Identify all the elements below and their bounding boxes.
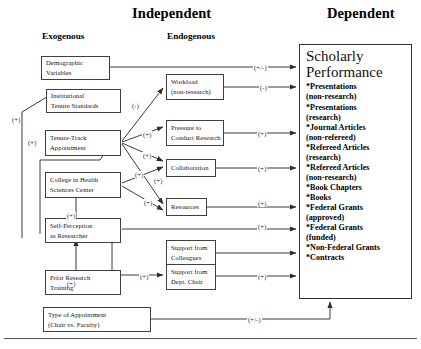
node-line: (non-research) bbox=[171, 87, 221, 97]
outcome-item: *Contracts bbox=[306, 253, 411, 263]
path-diagram: Independent Dependent Exogenous Endogeno… bbox=[0, 0, 421, 349]
node-line: Variables bbox=[46, 68, 107, 78]
outcome-item: *Presentations bbox=[306, 103, 411, 113]
node-line: Collaboration bbox=[171, 163, 213, 173]
edge-label-selfperception-to-outcome: (+) bbox=[257, 223, 267, 230]
edge-label-workload-to-outcome: (-) bbox=[259, 84, 268, 91]
node-resources[interactable]: Resources bbox=[166, 198, 207, 216]
node-type-of-appointment[interactable]: Type of Appointment (Chair vs. Faculty) bbox=[43, 307, 151, 332]
edge-label-college-to-collaboration: (+) bbox=[153, 177, 163, 184]
node-college-in-health-sciences-center[interactable]: College in Health Sciences Center bbox=[45, 172, 121, 198]
edge-label-deptchair-to-outcome: (+) bbox=[257, 273, 267, 280]
outcome-item: *Refereed Articles bbox=[306, 143, 411, 153]
node-line: Tenure-Track bbox=[50, 133, 118, 143]
edge-label-tenure-to-collaboration: (+) bbox=[142, 152, 152, 159]
node-line: Appointment bbox=[50, 143, 118, 153]
node-support-from-colleagues[interactable]: Support from Colleagues bbox=[166, 240, 216, 266]
outcome-item-cont: (non-refereed) bbox=[306, 133, 411, 143]
outcome-title-line: Scholarly bbox=[306, 48, 411, 64]
edge-label-tenure-to-pressure: (+) bbox=[142, 131, 152, 138]
outcome-item: *Presentations bbox=[306, 82, 411, 92]
edge-label-prior-to-selfperception: (+) bbox=[66, 280, 76, 287]
outcome-item-cont: (research) bbox=[306, 153, 411, 163]
edge-label-selfperception-to-institutional: (+) bbox=[11, 116, 21, 123]
outcome-list: *Presentations (non-research) *Presentat… bbox=[306, 82, 411, 263]
edge-label-selfperception-to-deptchair: (+) bbox=[139, 273, 149, 280]
header-endogenous: Endogenous bbox=[167, 31, 215, 41]
header-exogenous: Exogenous bbox=[42, 31, 84, 41]
node-line: Prior Research bbox=[50, 273, 118, 283]
edge-label-pressure-to-outcome: (+) bbox=[257, 130, 267, 137]
node-tenure-track-appointment[interactable]: Tenure-Track Appointment bbox=[45, 130, 121, 156]
outcome-item-cont: (approved) bbox=[306, 213, 411, 223]
node-prior-research-training[interactable]: Prior Research Training bbox=[45, 270, 121, 295]
node-collaboration[interactable]: Collaboration bbox=[166, 159, 216, 177]
node-line: Pressure to bbox=[171, 123, 221, 133]
node-line: Demographic bbox=[46, 58, 107, 68]
edge-label-tenure-to-workload: (-) bbox=[131, 102, 140, 109]
edge-label-resources-to-outcome: (+) bbox=[257, 200, 267, 207]
edge-label-appointment-to-outcome: (+/-) bbox=[247, 316, 262, 323]
outcome-item: *Federal Grants bbox=[306, 203, 411, 213]
node-line: Type of Appointment bbox=[48, 310, 148, 320]
node-support-from-dept-chair[interactable]: Support from Dept. Chair bbox=[166, 264, 216, 290]
outcome-item-cont: (non-research) bbox=[306, 92, 411, 102]
node-self-perception-as-researcher[interactable]: Self-Perception as Researcher bbox=[45, 218, 121, 243]
header-dependent: Dependent bbox=[327, 5, 395, 22]
edge-label-tenure-to-resources: (+) bbox=[134, 171, 144, 178]
edge-selfperception-to-institutional bbox=[22, 92, 55, 238]
node-line: Tenure Standards bbox=[51, 101, 118, 111]
edge-college-to-resources bbox=[122, 186, 163, 210]
node-workload-non-research[interactable]: Workload (non-research) bbox=[166, 74, 224, 100]
outcome-item: *Non-Federal Grants bbox=[306, 243, 411, 253]
node-line: Colleagues bbox=[171, 253, 213, 263]
node-scholarly-performance[interactable]: Scholarly Performance *Presentations (no… bbox=[299, 44, 412, 299]
node-line: Workload bbox=[171, 77, 221, 87]
node-line: Sciences Center bbox=[50, 185, 118, 195]
edge-label-selfperception-to-tenure: (+) bbox=[27, 139, 37, 146]
outcome-item: *Book Chapters bbox=[306, 183, 411, 193]
node-line: Training bbox=[50, 283, 118, 293]
node-line: Conduct Research bbox=[171, 133, 221, 143]
outcome-title-line: Performance bbox=[306, 64, 411, 80]
node-demographic-variables[interactable]: Demographic Variables bbox=[41, 56, 110, 80]
node-line: Institutional bbox=[51, 91, 118, 101]
node-pressure-to-conduct-research[interactable]: Pressure to Conduct Research bbox=[166, 120, 224, 146]
node-line: Dept. Chair bbox=[171, 277, 213, 287]
outcome-item-cont: (funded) bbox=[306, 233, 411, 243]
header-independent: Independent bbox=[132, 5, 211, 22]
edge-label-college-to-resources: (+) bbox=[143, 199, 153, 206]
node-line: Support from bbox=[171, 267, 213, 277]
node-line: Self-Perception bbox=[50, 221, 118, 231]
node-line: as Researcher bbox=[50, 231, 118, 241]
node-institutional-tenure-standards[interactable]: Institutional Tenure Standards bbox=[46, 89, 121, 113]
outcome-item: *Refereed Articles bbox=[306, 163, 411, 173]
node-line: (Chair vs. Faculty) bbox=[48, 320, 148, 330]
node-line: Support from bbox=[171, 243, 213, 253]
outcome-item: *Federal Grants bbox=[306, 223, 411, 233]
outcome-item-cont: (non-research) bbox=[306, 173, 411, 183]
edge-label-selfperception-to-college: (+) bbox=[66, 212, 76, 219]
edge-label-collaboration-to-outcome: (+) bbox=[257, 165, 267, 172]
edge-appointment-to-outcome bbox=[151, 302, 330, 319]
node-line: College in Health bbox=[50, 175, 118, 185]
outcome-item: *Journal Articles bbox=[306, 123, 411, 133]
bottom-divider bbox=[4, 338, 417, 339]
node-line: Resources bbox=[171, 202, 204, 212]
edge-label-demographic-to-outcome: (+/-) bbox=[253, 64, 268, 71]
outcome-item: *Books bbox=[306, 193, 411, 203]
outcome-item-cont: (research) bbox=[306, 113, 411, 123]
